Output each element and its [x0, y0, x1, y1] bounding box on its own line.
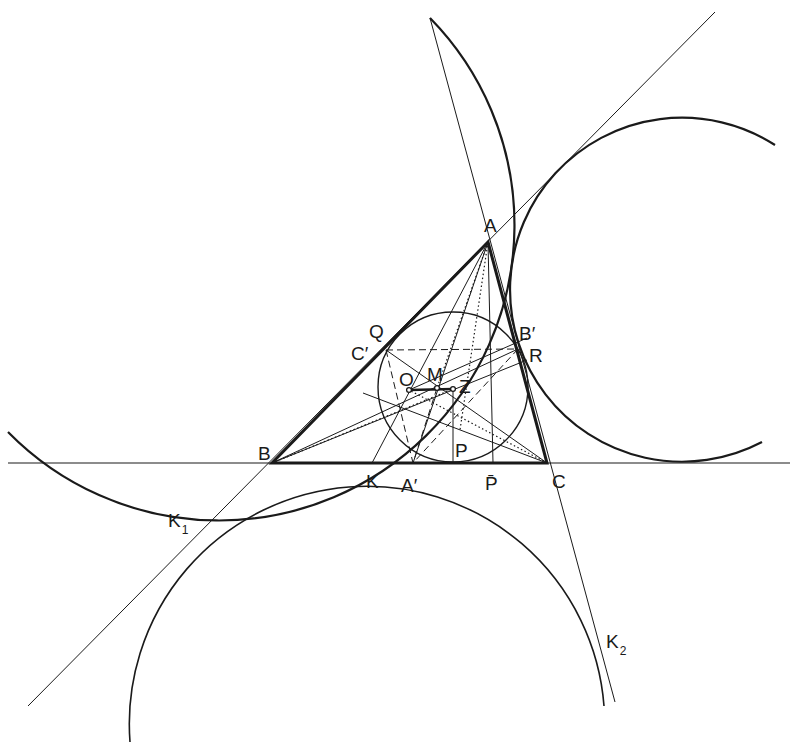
label-C-prime: C′ — [351, 343, 369, 364]
construction-line-solid — [413, 242, 488, 463]
label-M: M — [427, 364, 443, 385]
label-P-bar: P̄ — [485, 473, 498, 494]
label-Q: Q — [369, 321, 384, 342]
point-Z — [451, 387, 456, 392]
label-A-prime: A′ — [401, 475, 418, 496]
label-K1: K1 — [168, 510, 189, 537]
euler-line-segment — [409, 389, 453, 390]
triangle-excircles-figure: ABCQC′B′ROMZPKA′P̄K1K2 — [0, 0, 793, 746]
label-O: O — [399, 369, 414, 390]
point-M — [435, 386, 440, 391]
construction-line-dashed — [413, 388, 437, 463]
geometry-diagram: ABCQC′B′ROMZPKA′P̄K1K2 — [0, 0, 793, 746]
construction-line-solid — [272, 349, 518, 463]
construction-line-solid — [488, 242, 493, 463]
excircle-right — [510, 118, 775, 462]
excircle-bottom — [129, 486, 604, 742]
label-C: C — [552, 471, 566, 492]
construction-line-dashed — [386, 349, 518, 350]
label-A: A — [484, 215, 497, 236]
label-P: P — [455, 440, 468, 461]
label-K: K — [366, 471, 379, 492]
label-B: B — [258, 443, 271, 464]
label-R: R — [529, 345, 543, 366]
line-ab-extended — [28, 12, 715, 706]
triangle-abc — [272, 242, 547, 463]
label-Z: Z — [459, 376, 471, 397]
construction-line-dotted — [460, 242, 488, 430]
label-B-prime: B′ — [519, 323, 536, 344]
label-K2: K2 — [606, 631, 627, 658]
